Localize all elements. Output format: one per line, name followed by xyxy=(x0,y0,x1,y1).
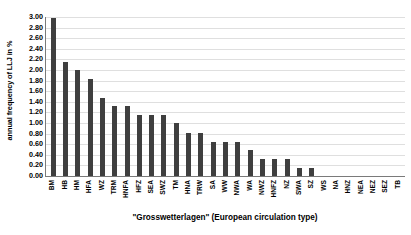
x-axis-tick-label: WA xyxy=(246,180,253,191)
bar-slot xyxy=(232,17,244,176)
x-axis-tick-label: SWZ xyxy=(160,180,167,195)
bar-slot xyxy=(244,17,256,176)
y-axis-tick-label: 2.60 xyxy=(29,35,43,42)
x-tick-slot: TB xyxy=(392,178,404,210)
bar-slot xyxy=(133,17,145,176)
x-tick-slot: BM xyxy=(46,178,58,210)
x-tick-slot: HB xyxy=(58,178,70,210)
x-tick-slot: TRM xyxy=(108,178,120,210)
bar-chart-figure: annual frequency of LLJ in % 3.002.802.6… xyxy=(0,0,411,235)
x-axis-tick-label: SA xyxy=(209,180,216,189)
y-axis-tick-label: 2.20 xyxy=(29,56,43,63)
y-axis-tick-label: 0.40 xyxy=(29,151,43,158)
bar xyxy=(75,70,80,176)
bar xyxy=(137,115,142,176)
bar-slot xyxy=(170,17,182,176)
x-axis-tick-labels: BMHBHMHFAWZTRMHNFAHFZSEASWZTMHNATRWSAWWN… xyxy=(45,178,405,210)
x-tick-slot: NWA xyxy=(231,178,243,210)
x-tick-slot: TM xyxy=(169,178,181,210)
bar-slot xyxy=(343,17,355,176)
bar-slot xyxy=(392,17,404,176)
x-tick-slot: NEA xyxy=(355,178,367,210)
x-axis-tick-label: TRM xyxy=(111,180,118,194)
y-axis-tick-label: 0.00 xyxy=(29,172,43,179)
x-axis-tick-label: TRW xyxy=(197,180,204,195)
bar-slot xyxy=(146,17,158,176)
bar xyxy=(198,133,203,176)
x-axis-tick-label: HFZ xyxy=(135,180,142,193)
bar xyxy=(260,159,265,176)
bar-slot xyxy=(207,17,219,176)
x-axis-tick-label: WW xyxy=(222,180,229,192)
x-tick-slot: HNA xyxy=(182,178,194,210)
y-axis-tick-labels: 3.002.802.602.402.202.001.801.601.401.20… xyxy=(16,14,43,177)
bar xyxy=(223,142,228,176)
bar xyxy=(235,142,240,176)
x-axis-tick-label: NA xyxy=(333,180,340,190)
x-axis-tick-label: HM xyxy=(74,180,81,190)
x-axis-tick-label: TB xyxy=(395,180,402,189)
x-axis-tick-label: SWA xyxy=(296,180,303,195)
bar xyxy=(100,98,105,176)
x-tick-slot: HNFA xyxy=(120,178,132,210)
bar xyxy=(174,123,179,176)
bar xyxy=(272,159,277,176)
x-axis-tick-label: SEZ xyxy=(382,180,389,193)
bar-slot xyxy=(306,17,318,176)
x-tick-slot: WS xyxy=(318,178,330,210)
bar-slot xyxy=(379,17,391,176)
bar-slot xyxy=(59,17,71,176)
x-tick-slot: SWZ xyxy=(157,178,169,210)
x-tick-slot: HFZ xyxy=(132,178,144,210)
x-axis-title: "Grosswetterlagen" (European circulation… xyxy=(45,213,405,222)
bar xyxy=(186,133,191,176)
y-axis-tick-label: 1.00 xyxy=(29,119,43,126)
x-axis-tick-label: SZ xyxy=(308,180,315,188)
y-axis-tick-label: 0.60 xyxy=(29,141,43,148)
x-axis-tick-label: WS xyxy=(320,180,327,191)
x-tick-slot: HNFZ xyxy=(268,178,280,210)
x-axis-tick-label: NEZ xyxy=(370,180,377,193)
x-axis-tick-label: HNFZ xyxy=(271,180,278,198)
x-axis-tick-label: NZ xyxy=(283,180,290,189)
x-axis-tick-label: TM xyxy=(172,180,179,190)
x-tick-slot: WW xyxy=(219,178,231,210)
bar-slot xyxy=(109,17,121,176)
x-axis-tick-label: NWZ xyxy=(259,180,266,195)
x-tick-slot: NWZ xyxy=(256,178,268,210)
bar-slot xyxy=(281,17,293,176)
bar-slot xyxy=(219,17,231,176)
bar-slot xyxy=(96,17,108,176)
bar xyxy=(112,106,117,176)
bar xyxy=(161,115,166,176)
bar-slot xyxy=(72,17,84,176)
x-axis-tick-label: NEA xyxy=(357,180,364,194)
x-axis-tick-label: WZ xyxy=(98,180,105,190)
x-axis-tick-label: HFA xyxy=(86,180,93,193)
x-axis-tick-label: HNFA xyxy=(123,180,130,198)
bar-slot xyxy=(47,17,59,176)
bar-slot xyxy=(84,17,96,176)
x-tick-slot: HFA xyxy=(83,178,95,210)
bar xyxy=(248,150,253,177)
bars-layer xyxy=(46,17,405,176)
bar-slot xyxy=(195,17,207,176)
bar xyxy=(309,168,314,176)
bar-slot xyxy=(367,17,379,176)
bar-slot xyxy=(182,17,194,176)
x-tick-slot: WZ xyxy=(95,178,107,210)
bar-slot xyxy=(355,17,367,176)
x-tick-slot: SZ xyxy=(305,178,317,210)
x-tick-slot: TRW xyxy=(194,178,206,210)
y-axis-tick-label: 1.80 xyxy=(29,77,43,84)
x-axis-tick-label: HB xyxy=(61,180,68,190)
bar xyxy=(297,168,302,176)
x-axis-tick-label: HNA xyxy=(185,180,192,194)
x-tick-slot: NA xyxy=(330,178,342,210)
y-axis-tick-label: 0.80 xyxy=(29,130,43,137)
plot-area xyxy=(45,17,405,177)
bar-slot xyxy=(158,17,170,176)
x-tick-slot: SEA xyxy=(145,178,157,210)
x-tick-slot: NEZ xyxy=(367,178,379,210)
x-axis-tick-label: HNZ xyxy=(345,180,352,194)
